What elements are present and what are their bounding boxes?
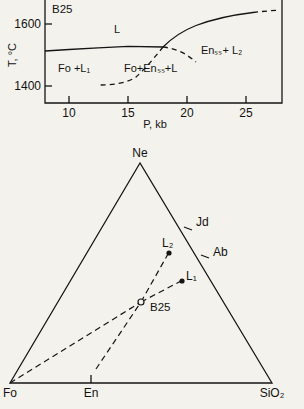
sample-id-label: B25 [52,3,72,15]
ternary-triangle [10,163,272,383]
field-label-fo-enss-l: Fo+Enₛₛ+L [124,62,177,74]
point-label-l1: L₁ [186,269,197,283]
field-label-enss-l2: Enₛₛ+ L₂ [201,44,242,56]
edge-label-jd: Jd [196,215,209,229]
field-label-fo-l1: Fo +L₁ [58,62,90,74]
xtick-label-25: 25 [239,106,253,120]
edge-label-en: En [84,386,99,400]
tick-ab [201,255,209,258]
tick-jd [184,227,192,230]
point-l1-marker [179,278,184,283]
point-label-b25: B25 [150,301,170,313]
figure-svg: 1600 1400 10 15 20 25 P, kb T, °C B25 L … [0,0,304,409]
vertex-label-fo: Fo [3,386,17,400]
plot-frame [45,0,282,103]
point-l2-marker [166,250,171,255]
point-label-l2: L₂ [162,236,174,250]
ytick-label-1400: 1400 [14,79,41,93]
xtick-label-20: 20 [180,106,194,120]
vertex-label-sio2: SiO₂ [260,386,285,400]
edge-label-ab: Ab [213,245,228,259]
curve-solvus-dashed-branch [163,47,196,62]
ytick-label-1600: 1600 [14,17,41,31]
pt-phase-diagram: 1600 1400 10 15 20 25 P, kb T, °C B25 L … [6,0,282,130]
vertex-label-ne: Ne [132,146,148,160]
xtick-label-10: 10 [62,106,76,120]
tieline-fo-b25 [10,302,141,383]
point-b25-marker [138,299,144,305]
tieline-en-b25 [96,302,141,369]
field-label-L: L [114,23,120,35]
ternary-diagram: Ne Fo SiO₂ Jd Ab En B25 L₁ L₂ [3,146,285,400]
curve-liquidus-enss-l2 [163,13,253,48]
x-axis-title: P, kb [143,118,167,130]
xtick-label-15: 15 [121,106,135,120]
curve-fo-l1-boundary [45,46,163,51]
figure-container: 1600 1400 10 15 20 25 P, kb T, °C B25 L … [0,0,304,409]
curve-liquidus-dashed-extension [253,10,279,12]
y-axis-title: T, °C [6,43,18,67]
